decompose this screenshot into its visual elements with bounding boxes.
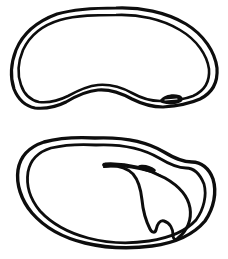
- bean-seed-drawing: [0, 0, 228, 259]
- figure-container: Bean seed: [0, 0, 228, 259]
